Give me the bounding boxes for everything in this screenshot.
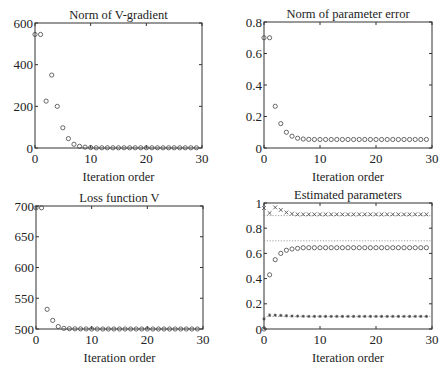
x-axis-label: Iteration order (312, 351, 385, 365)
data-point (301, 246, 305, 250)
data-point (262, 317, 265, 320)
x-tick-label: 30 (196, 151, 209, 166)
subplot-loss-function-v: Loss function V Iteration order 01020305… (15, 191, 210, 365)
data-point (313, 315, 316, 318)
data-point (290, 247, 294, 251)
data-point (302, 315, 305, 318)
y-tick-label: 200 (14, 99, 34, 114)
axes-frame (264, 22, 432, 148)
data-point (273, 258, 277, 262)
y-tick-label: 0.6 (246, 246, 263, 261)
data-point (363, 246, 367, 250)
data-point (55, 104, 59, 108)
data-point (397, 212, 401, 216)
subplot-estimated-parameters: Estimated parameters Iteration order 010… (246, 188, 439, 365)
y-tick-label: 0 (27, 141, 34, 156)
subplot-norm-v-gradient: Norm of V-gradient Iteration order 01020… (14, 8, 209, 184)
data-point (380, 315, 383, 318)
subplot-norm-parameter-error: Norm of parameter error Iteration order … (246, 7, 439, 184)
data-point (357, 246, 361, 250)
axes-frame (35, 23, 202, 148)
data-point (279, 314, 282, 317)
data-point (352, 315, 355, 318)
data-point (419, 246, 423, 250)
data-point (380, 246, 384, 250)
data-point (296, 136, 300, 140)
data-point (335, 137, 339, 141)
y-tick-label: 400 (14, 57, 34, 72)
plot-area: 01020300200400600 (14, 16, 209, 167)
y-tick-label: 550 (15, 291, 35, 306)
axes-frame (264, 203, 432, 329)
data-point (279, 208, 283, 212)
plot-area: 0102030500550600650700 (15, 199, 210, 348)
subplot-title: Norm of parameter error (286, 7, 410, 21)
y-tick-label: 0.8 (246, 221, 262, 236)
data-point (62, 326, 66, 330)
data-point (391, 246, 395, 250)
data-point (301, 137, 305, 141)
data-point (72, 142, 76, 146)
data-point (358, 315, 361, 318)
y-tick-label: 650 (15, 229, 35, 244)
axes-frame (36, 206, 203, 329)
data-point (268, 211, 272, 215)
series-parameter-3 (262, 314, 428, 321)
data-point (396, 246, 400, 250)
data-point (290, 134, 294, 138)
subplot-title: Estimated parameters (294, 188, 402, 202)
data-point (397, 315, 400, 318)
data-point (268, 273, 272, 277)
figure: Norm of V-gradient Iteration order 01020… (0, 0, 448, 370)
data-point (374, 315, 377, 318)
data-point (374, 137, 378, 141)
data-point (340, 137, 344, 141)
data-point (312, 246, 316, 250)
data-point (268, 314, 271, 317)
data-point (50, 73, 54, 77)
data-point (329, 246, 333, 250)
data-point (290, 212, 294, 216)
data-point (346, 246, 350, 250)
subplot-title: Loss function V (79, 191, 159, 205)
data-point (408, 246, 412, 250)
data-point (44, 99, 48, 103)
y-tick-label: 600 (14, 16, 34, 31)
data-point (56, 324, 60, 328)
data-point (290, 314, 293, 317)
plot-area: 010203000.20.40.60.81 (246, 196, 439, 348)
data-point (352, 137, 356, 141)
x-tick-label: 30 (426, 151, 439, 166)
data-point (307, 246, 311, 250)
x-tick-label: 20 (370, 151, 383, 166)
data-point (268, 36, 272, 40)
data-point (369, 315, 372, 318)
data-point (341, 315, 344, 318)
data-point (285, 211, 289, 215)
data-point (391, 315, 394, 318)
x-tick-label: 30 (197, 332, 210, 347)
data-point (408, 137, 412, 141)
y-tick-label: 500 (15, 322, 35, 337)
series-parameter-1 (262, 206, 428, 217)
series-gradient-norm (33, 32, 199, 150)
data-point (340, 246, 344, 250)
data-point (419, 137, 423, 141)
data-point (424, 137, 428, 141)
x-axis-label: Iteration order (84, 351, 157, 365)
data-point (330, 315, 333, 318)
x-tick-label: 10 (84, 151, 97, 166)
y-tick-label: 0.2 (246, 109, 262, 124)
y-tick-label: 0.6 (246, 46, 263, 61)
series-parameter-error-norm (262, 36, 429, 142)
data-point (346, 137, 350, 141)
data-point (273, 206, 277, 210)
data-point (324, 137, 328, 141)
data-point (391, 137, 395, 141)
data-point (386, 315, 389, 318)
data-point (363, 315, 366, 318)
data-point (414, 315, 417, 318)
x-axis-label: Iteration order (83, 170, 156, 184)
x-tick-label: 20 (140, 151, 153, 166)
data-point (38, 32, 42, 36)
